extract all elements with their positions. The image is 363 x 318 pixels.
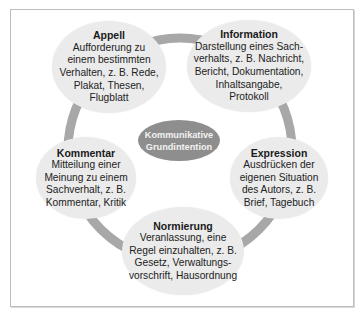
node-expression-title: Expression bbox=[251, 147, 308, 160]
node-kommentar: Kommentar Mitteilung einer Meinung zu ei… bbox=[36, 137, 136, 219]
node-kommentar-title: Kommentar bbox=[57, 147, 115, 160]
center-node: Kommunikative Grundintention bbox=[138, 120, 220, 161]
node-normierung-description: Veranlassung, eine Regel einzuhalten, z.… bbox=[129, 232, 237, 282]
node-appell: Appell Aufforderung zu einem bestimmten … bbox=[52, 21, 166, 113]
node-expression: Expression Ausdrücken der eigenen Situat… bbox=[230, 137, 328, 219]
node-kommentar-description: Mitteilung einer Meinung zu einem Sachve… bbox=[44, 159, 127, 209]
node-appell-title: Appell bbox=[93, 29, 125, 42]
node-appell-description: Aufforderung zu einem bestimmten Verhalt… bbox=[59, 42, 158, 105]
node-expression-description: Ausdrücken der eigenen Situation des Aut… bbox=[240, 159, 319, 209]
node-information-description: Darstellung eines Sach- verhalts, z. B. … bbox=[194, 41, 304, 104]
node-normierung-title: Normierung bbox=[153, 220, 213, 233]
node-normierung: Normierung Veranlassung, eine Regel einz… bbox=[122, 207, 244, 295]
node-information-title: Information bbox=[220, 28, 278, 41]
node-information: Information Darstellung eines Sach- verh… bbox=[187, 20, 311, 112]
